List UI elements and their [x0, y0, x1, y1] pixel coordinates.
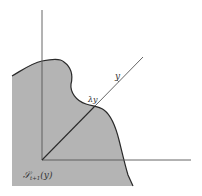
label-y: y	[114, 71, 121, 81]
label-lambda-y: λy	[87, 95, 98, 104]
diagram-canvas: y λy 𝒮t+1(y)	[0, 0, 202, 196]
label-region-arg: (y)	[40, 170, 53, 180]
label-region-subscript: t+1	[30, 175, 40, 181]
